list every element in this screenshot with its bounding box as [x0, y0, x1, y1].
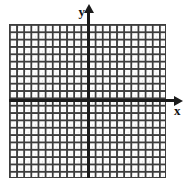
y-axis-arrow-icon	[84, 4, 94, 13]
x-axis-label: x	[174, 104, 186, 117]
y-axis-label: y	[74, 5, 85, 18]
y-axis-line	[87, 11, 89, 178]
x-axis-line	[9, 99, 176, 101]
coordinate-grid-figure: y x	[0, 0, 191, 193]
